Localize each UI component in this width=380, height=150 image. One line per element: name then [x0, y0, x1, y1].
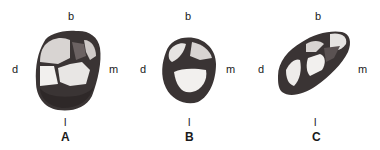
tooth-specimen-a	[0, 0, 130, 150]
tooth-specimen-c	[250, 0, 380, 150]
panel-a: b d m l A	[0, 0, 130, 150]
tooth-specimen-b	[130, 0, 250, 150]
panel-c: b d m l C	[250, 0, 380, 150]
panel-b: b d m l B	[130, 0, 250, 150]
